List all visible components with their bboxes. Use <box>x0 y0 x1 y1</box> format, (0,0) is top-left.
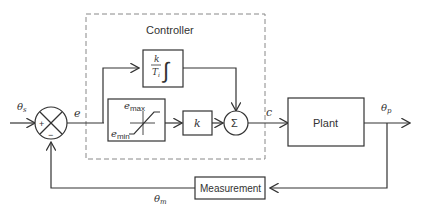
comparator: + − <box>35 107 67 140</box>
svg-text:Measurement: Measurement <box>200 183 261 194</box>
sum-junction: Σ <box>224 111 248 135</box>
gain-block: k <box>183 111 212 135</box>
error-label: e <box>74 107 81 120</box>
controller-label: Controller <box>146 24 194 36</box>
control-diagram: Controller θs + − e k Ti ∫ emax emin k <box>0 0 421 214</box>
plant-block: Plant <box>288 98 364 146</box>
measured-label: θm <box>154 193 167 206</box>
integrator-block: k Ti ∫ <box>143 50 183 87</box>
control-label: c <box>266 106 272 119</box>
measurement-block: Measurement <box>195 177 265 199</box>
saturation-block: emax emin <box>108 99 165 141</box>
plus-sign: + <box>39 119 44 129</box>
integrator-output-line <box>183 68 236 111</box>
setpoint-label: θs <box>17 101 27 114</box>
process-label: θp <box>381 102 392 115</box>
svg-text:k: k <box>154 54 159 64</box>
minus-sign: − <box>48 130 53 140</box>
measured-feedback-line <box>51 142 195 188</box>
sigma-icon: Σ <box>231 117 238 129</box>
svg-text:k: k <box>194 117 201 130</box>
svg-text:Plant: Plant <box>313 117 338 129</box>
